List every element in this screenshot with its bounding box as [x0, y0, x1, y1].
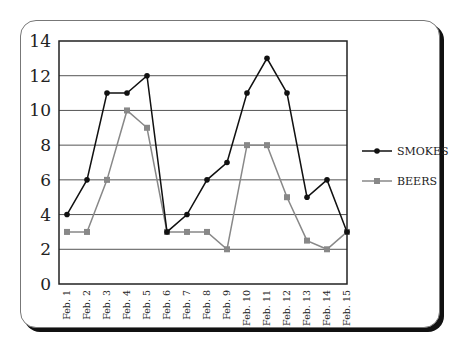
legend-label: SMOKES: [397, 145, 449, 158]
y-tick-label: 14: [29, 31, 51, 51]
data-point: [144, 73, 150, 79]
data-point: [344, 229, 350, 235]
legend: SMOKESBEERS: [362, 145, 449, 188]
x-tick-label: Feb. 11: [261, 290, 272, 326]
data-point: [204, 229, 210, 235]
data-point: [324, 177, 330, 183]
x-tick-label: Feb. 10: [241, 290, 252, 326]
y-tick-label: 2: [40, 239, 51, 259]
x-tick-label: Feb. 5: [141, 290, 152, 320]
x-tick-label: Feb. 6: [161, 290, 172, 320]
data-point: [64, 212, 70, 218]
x-tick-label: Feb. 4: [121, 290, 132, 320]
data-point: [264, 56, 270, 62]
x-axis-ticks: Feb. 1Feb. 2Feb. 3Feb. 4Feb. 5Feb. 6Feb.…: [61, 290, 352, 326]
x-tick-label: Feb. 8: [201, 290, 212, 320]
data-point: [324, 246, 330, 252]
line-chart: 02468101214 Feb. 1Feb. 2Feb. 3Feb. 4Feb.…: [0, 0, 464, 359]
y-tick-label: 10: [29, 100, 51, 120]
data-point: [284, 194, 290, 200]
x-tick-label: Feb. 2: [81, 290, 92, 320]
data-point: [304, 238, 310, 244]
grid-lines: [59, 76, 347, 250]
y-tick-label: 0: [40, 274, 51, 294]
y-tick-label: 12: [29, 66, 51, 86]
data-point: [144, 125, 150, 131]
data-point: [164, 229, 170, 235]
legend-marker: [374, 178, 380, 184]
data-point: [184, 229, 190, 235]
y-tick-label: 6: [40, 170, 51, 190]
data-point: [224, 246, 230, 252]
x-tick-label: Feb. 3: [101, 290, 112, 320]
data-point: [104, 177, 110, 183]
data-point: [244, 142, 250, 148]
x-tick-label: Feb. 1: [61, 290, 72, 320]
series-group: [64, 56, 350, 253]
x-tick-label: Feb. 15: [341, 290, 352, 326]
data-point: [264, 142, 270, 148]
data-point: [104, 90, 110, 96]
x-tick-label: Feb. 14: [321, 290, 332, 326]
data-point: [304, 194, 310, 200]
x-tick-label: Feb. 7: [181, 290, 192, 320]
y-tick-label: 8: [40, 135, 51, 155]
data-point: [204, 177, 210, 183]
plot-area: [59, 41, 347, 284]
data-point: [124, 90, 130, 96]
data-point: [224, 160, 230, 166]
x-tick-label: Feb. 13: [301, 290, 312, 326]
x-tick-label: Feb. 9: [221, 290, 232, 320]
data-point: [124, 107, 130, 113]
x-tick-label: Feb. 12: [281, 290, 292, 326]
legend-item: BEERS: [362, 175, 437, 188]
data-point: [64, 229, 70, 235]
y-tick-label: 4: [40, 205, 51, 225]
data-point: [84, 177, 90, 183]
legend-label: BEERS: [397, 175, 437, 188]
data-point: [84, 229, 90, 235]
data-point: [284, 90, 290, 96]
legend-item: SMOKES: [362, 145, 449, 158]
legend-marker: [374, 148, 380, 154]
data-point: [184, 212, 190, 218]
data-point: [244, 90, 250, 96]
y-axis-ticks: 02468101214: [29, 31, 51, 294]
